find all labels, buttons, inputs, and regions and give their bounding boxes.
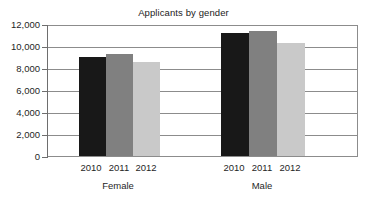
y-tick-6000 [42, 91, 47, 92]
y-axis-label-10000: 10,000 [0, 41, 40, 52]
y-axis-label-2000: 2,000 [0, 129, 40, 140]
plot-area [47, 25, 358, 157]
bar-female-2012[interactable] [133, 62, 160, 156]
y-axis-label-4000: 4,000 [0, 107, 40, 118]
bar-female-2010[interactable] [79, 57, 106, 156]
x-label-male-2012: 2012 [279, 162, 300, 173]
y-tick-12000 [42, 25, 47, 26]
y-tick-2000 [42, 135, 47, 136]
y-tick-0 [42, 157, 47, 158]
y-axis-label-6000: 6,000 [0, 85, 40, 96]
x-label-female-2010: 2010 [80, 162, 101, 173]
bar-male-2012[interactable] [277, 43, 305, 156]
gridline-10000 [48, 47, 357, 48]
y-tick-8000 [42, 69, 47, 70]
x-group-label-male: Male [252, 180, 273, 191]
bar-male-2011[interactable] [249, 31, 277, 156]
x-label-male-2011: 2011 [252, 162, 272, 173]
x-group-label-female: Female [102, 180, 134, 191]
x-label-male-2010: 2010 [223, 162, 244, 173]
bar-chart: Applicants by gender 12,000 10,000 8,000… [0, 0, 367, 201]
bar-female-2011[interactable] [106, 54, 133, 156]
y-axis-label-8000: 8,000 [0, 63, 40, 74]
bar-male-2010[interactable] [221, 33, 249, 157]
y-tick-4000 [42, 113, 47, 114]
x-label-female-2012: 2012 [135, 162, 156, 173]
y-tick-10000 [42, 47, 47, 48]
x-label-female-2011: 2011 [109, 162, 129, 173]
y-axis-line [47, 25, 48, 158]
y-axis-label-0: 0 [0, 151, 40, 162]
chart-title: Applicants by gender [0, 7, 367, 18]
y-axis-label-12000: 12,000 [0, 19, 40, 30]
